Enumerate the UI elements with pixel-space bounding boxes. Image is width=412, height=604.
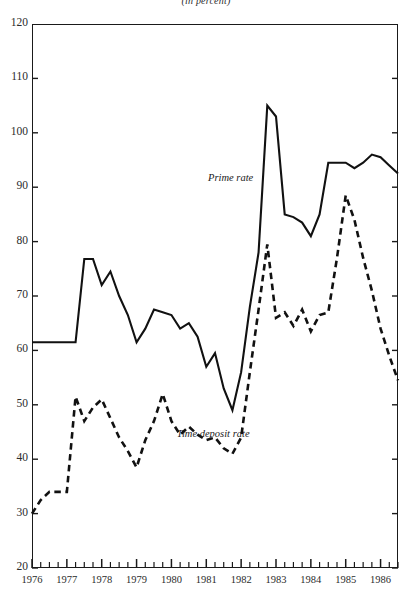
series-annotation-prime-rate: Prime rate — [208, 172, 253, 183]
chart-canvas — [0, 0, 412, 604]
series-annotation-time-deposit-rate: Time deposit rate — [177, 428, 250, 439]
chart-figure: (in percent) 2030405060708090100110120 1… — [0, 0, 412, 604]
series-line-prime-rate — [32, 106, 398, 411]
